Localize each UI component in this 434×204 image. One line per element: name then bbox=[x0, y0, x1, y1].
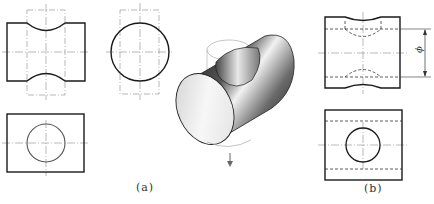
arrow-down-icon bbox=[227, 161, 233, 167]
arrowhead-up bbox=[423, 29, 427, 35]
isometric-view bbox=[165, 35, 294, 167]
side-view-a bbox=[106, 3, 172, 100]
technical-drawing: ϕ bbox=[0, 0, 434, 204]
front-view-a bbox=[2, 4, 90, 100]
top-view-a bbox=[2, 114, 90, 176]
top-view-b bbox=[318, 110, 408, 180]
front-view-b: ϕ bbox=[318, 12, 431, 94]
diameter-symbol: ϕ bbox=[413, 46, 424, 53]
caption-a: (a) bbox=[136, 181, 154, 194]
arrowhead-down bbox=[423, 71, 427, 77]
caption-b: (b) bbox=[364, 182, 383, 195]
